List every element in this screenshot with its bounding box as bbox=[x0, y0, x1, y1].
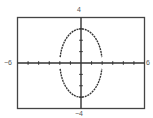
graph-plot bbox=[0, 0, 153, 118]
axes bbox=[18, 18, 145, 109]
